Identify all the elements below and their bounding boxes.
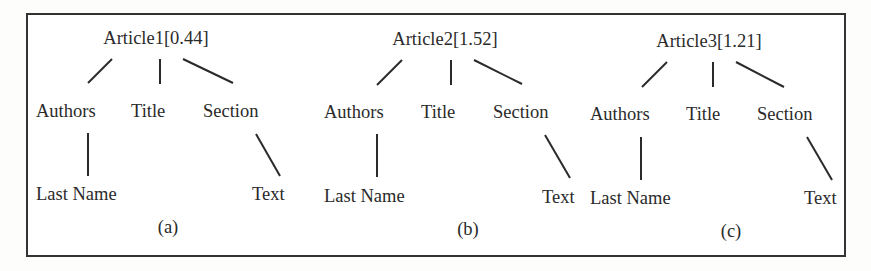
tree-c-root: Article3[1.21] bbox=[656, 31, 761, 51]
tree-a-node-text: Text bbox=[252, 184, 285, 204]
tree-c-edge-root-section bbox=[736, 62, 784, 87]
tree-a-root: Article1[0.44] bbox=[103, 28, 208, 48]
tree-c-node-title: Title bbox=[686, 104, 720, 124]
tree-a-node-authors: Authors bbox=[36, 101, 96, 121]
tree-b-node-title: Title bbox=[421, 102, 455, 122]
tree-diagrams: Article1[0.44] Authors Title Section Las… bbox=[0, 0, 871, 271]
tree-a: Article1[0.44] Authors Title Section Las… bbox=[36, 28, 285, 238]
tree-a-node-section: Section bbox=[203, 101, 259, 121]
tree-b-node-text: Text bbox=[542, 187, 575, 207]
tree-c-edge-section-text bbox=[807, 137, 832, 180]
tree-b-node-last-name: Last Name bbox=[324, 186, 405, 206]
tree-a-edge-section-text bbox=[256, 134, 280, 176]
tree-a-edge-root-authors bbox=[88, 59, 112, 83]
tree-c-caption: (c) bbox=[721, 221, 742, 242]
tree-b-root: Article2[1.52] bbox=[392, 29, 497, 49]
tree-b-node-section: Section bbox=[493, 102, 549, 122]
tree-b-edge-section-text bbox=[545, 135, 570, 178]
tree-a-node-last-name: Last Name bbox=[36, 184, 117, 204]
tree-a-edge-root-section bbox=[183, 59, 233, 83]
tree-a-caption: (a) bbox=[158, 217, 179, 238]
tree-b-caption: (b) bbox=[457, 219, 479, 240]
tree-c-node-last-name: Last Name bbox=[590, 188, 671, 208]
tree-c-edge-root-authors bbox=[642, 62, 667, 87]
tree-c-node-text: Text bbox=[804, 188, 837, 208]
tree-c: Article3[1.21] Authors Title Section Las… bbox=[590, 31, 837, 242]
tree-c-node-section: Section bbox=[757, 104, 813, 124]
tree-b-edge-root-authors bbox=[377, 60, 402, 85]
tree-b-edge-root-section bbox=[474, 60, 522, 84]
tree-b-node-authors: Authors bbox=[324, 102, 384, 122]
tree-a-node-title: Title bbox=[131, 101, 165, 121]
tree-b: Article2[1.52] Authors Title Section Las… bbox=[324, 29, 575, 240]
tree-c-node-authors: Authors bbox=[590, 104, 650, 124]
